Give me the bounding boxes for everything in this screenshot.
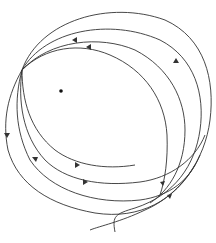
arrow-icon	[32, 157, 38, 162]
arrow-icon	[4, 133, 10, 138]
arrow-icon	[160, 181, 165, 186]
arrow-icon	[72, 37, 77, 43]
arrow-icon	[83, 179, 88, 185]
orbit-path-outer	[22, 12, 211, 230]
orbit-path-4	[22, 48, 167, 195]
orbit-path-3	[22, 42, 185, 203]
arrow-icon	[173, 58, 179, 63]
arrow-icon	[75, 162, 80, 168]
orbit-diagram	[0, 0, 216, 243]
orbit-path-lower-2	[17, 70, 200, 201]
central-body-dot	[59, 89, 63, 93]
orbit-path-2	[22, 29, 201, 232]
